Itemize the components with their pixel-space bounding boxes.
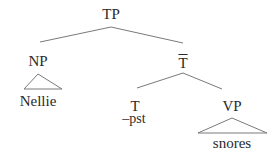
edge-tp-tbar: [111, 27, 183, 43]
syntax-tree-diagram: TP NP Nellie T T –pst VP snores: [0, 0, 280, 155]
node-tp: TP: [102, 7, 120, 22]
edge-tp-np: [40, 27, 111, 42]
feature-pst: –pst: [122, 112, 145, 126]
vp-triangle: [198, 118, 267, 133]
tree-edges: [0, 0, 280, 155]
node-t-bar: T: [178, 56, 187, 71]
edge-tbar-vp: [183, 73, 222, 89]
node-vp: VP: [222, 99, 241, 114]
np-triangle: [24, 74, 62, 89]
leaf-nellie: Nellie: [20, 94, 57, 109]
leaf-snores: snores: [213, 136, 251, 151]
edge-tbar-t: [137, 73, 183, 88]
node-np: NP: [28, 54, 47, 69]
